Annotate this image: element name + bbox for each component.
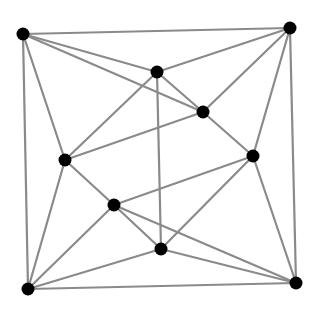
edge-C-E <box>65 72 157 160</box>
edge-G-H <box>114 205 161 249</box>
edge-A-C <box>23 34 157 72</box>
edge-C-H <box>157 72 161 249</box>
edge-D-E <box>65 112 203 160</box>
edge-I-J <box>28 283 296 289</box>
edge-A-E <box>23 34 65 160</box>
edge-A-D <box>23 34 203 112</box>
edge-F-J <box>253 156 296 283</box>
node-F <box>247 150 260 163</box>
edge-C-D <box>157 72 203 112</box>
edge-B-J <box>290 28 296 283</box>
edge-E-G <box>65 160 114 205</box>
node-G <box>108 199 121 212</box>
node-A <box>17 28 30 41</box>
edge-F-G <box>114 156 253 205</box>
edge-B-C <box>157 28 290 72</box>
edge-D-F <box>203 112 253 156</box>
node-E <box>59 154 72 167</box>
node-B <box>284 22 297 35</box>
node-I <box>22 283 35 296</box>
edge-F-H <box>161 156 253 249</box>
edge-A-B <box>23 28 290 34</box>
node-J <box>290 277 303 290</box>
edge-G-J <box>114 205 296 283</box>
graph-diagram <box>0 0 316 310</box>
node-H <box>155 243 168 256</box>
node-D <box>197 106 210 119</box>
node-C <box>151 66 164 79</box>
edge-A-I <box>23 34 28 289</box>
